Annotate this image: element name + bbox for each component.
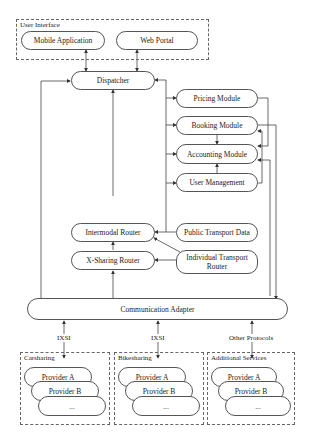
dispatcher-node: Dispatcher <box>71 71 155 90</box>
protocol-label-carsharing: IXSI <box>56 334 72 342</box>
user-management-node: User Management <box>176 173 258 192</box>
accounting-module-node: Accounting Module <box>176 144 258 164</box>
x-sharing-router-node: X-Sharing Router <box>71 251 155 270</box>
mobile-application-node: Mobile Application <box>21 31 105 50</box>
public-transport-data-node: Public Transport Data <box>176 223 258 242</box>
individual-transport-router-node: Individual Transport Router <box>176 250 258 274</box>
carsharing-label: Carsharing <box>24 354 55 362</box>
web-portal-node: Web Portal <box>116 31 198 50</box>
intermodal-router-node: Intermodal Router <box>71 223 155 242</box>
bikesharing-provider-more: ... <box>132 396 200 416</box>
bikesharing-label: Bikesharing <box>118 354 152 362</box>
protocol-label-additional: Other Protocols <box>228 334 274 342</box>
protocol-label-bikesharing: IXSI <box>150 334 166 342</box>
additional-services-label: Additional Services <box>211 354 266 362</box>
pricing-module-node: Pricing Module <box>176 89 258 108</box>
booking-module-node: Booking Module <box>176 116 258 135</box>
carsharing-provider-more: ... <box>38 396 106 416</box>
additional-provider-more: ... <box>225 396 291 416</box>
user-interface-label: User Interface <box>20 21 60 29</box>
communication-adapter-node: Communication Adapter <box>27 298 288 320</box>
